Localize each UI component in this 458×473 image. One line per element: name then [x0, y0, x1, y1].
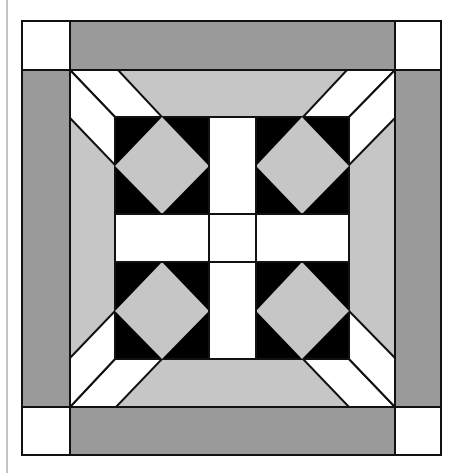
cross-vertical-top: [209, 117, 256, 214]
corner-top-right: [395, 21, 441, 70]
border-right: [395, 70, 441, 407]
cross-horizontal-left: [115, 214, 209, 262]
border-top: [70, 21, 395, 70]
border-bottom: [70, 407, 395, 455]
cross-horizontal-right: [256, 214, 349, 262]
border-left: [22, 70, 70, 407]
quilt-block: [0, 0, 458, 473]
corner-bottom-right: [395, 407, 441, 455]
corner-bottom-left: [22, 407, 70, 455]
cross-vertical-bottom: [209, 262, 256, 359]
cross-center-square: [209, 214, 256, 262]
corner-top-left: [22, 21, 70, 70]
